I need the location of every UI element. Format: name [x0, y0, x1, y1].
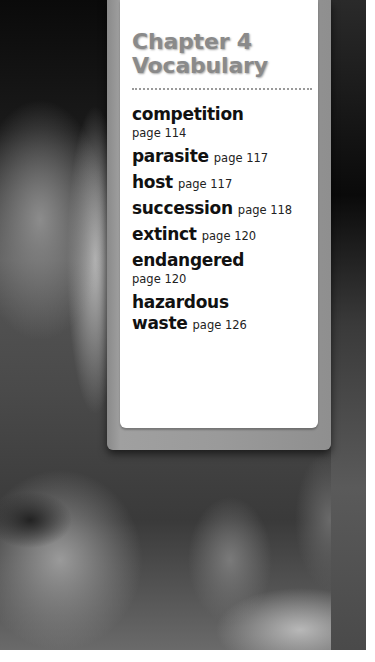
vocab-item: parasite page 117: [132, 146, 317, 166]
vocabulary-card-frame: Chapter 4 Vocabulary competition page 11…: [107, 0, 331, 450]
vocab-term: waste: [132, 313, 187, 333]
vocab-term: parasite: [132, 146, 209, 166]
plant-stem-image: [331, 0, 366, 650]
vocab-term: competition: [132, 104, 244, 124]
vocab-page: page 120: [132, 272, 317, 286]
vocabulary-list: competition page 114 parasite page 117 h…: [132, 104, 317, 335]
vocab-page: page 126: [193, 318, 247, 332]
vocab-page: page 120: [202, 229, 256, 243]
vocab-term: endangered: [132, 250, 244, 270]
vocab-item: host page 117: [132, 172, 317, 192]
title-line-1: Chapter 4: [132, 29, 252, 54]
vocab-page: page 117: [214, 151, 268, 165]
vocab-page: page 114: [132, 126, 317, 140]
vocab-item: hazardous waste page 126: [132, 292, 317, 335]
vocab-item: extinct page 120: [132, 224, 317, 244]
vocab-term: extinct: [132, 224, 197, 244]
vocab-item: competition page 114: [132, 104, 317, 140]
vocab-item: succession page 118: [132, 198, 317, 218]
title-line-2: Vocabulary: [132, 53, 268, 78]
card-title: Chapter 4 Vocabulary: [132, 30, 268, 78]
vocab-page: page 117: [178, 177, 232, 191]
dotted-divider: [132, 88, 312, 90]
vocab-page: page 118: [238, 203, 292, 217]
vocab-term: succession: [132, 198, 233, 218]
vocab-term: host: [132, 172, 173, 192]
vocab-item: endangered page 120: [132, 250, 317, 286]
vocabulary-card: Chapter 4 Vocabulary competition page 11…: [120, 0, 318, 428]
vocab-term: hazardous: [132, 292, 229, 312]
